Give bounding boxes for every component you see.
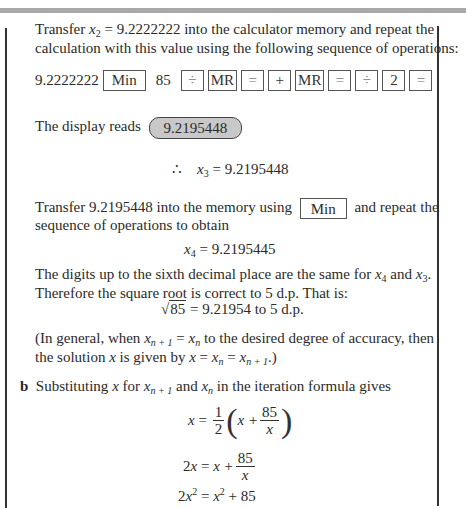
therefore-symbol: ∴	[172, 161, 182, 177]
fraction-85-over-x: 85x	[260, 404, 279, 437]
key-equals[interactable]: =	[241, 70, 264, 91]
frame-right-border	[437, 26, 439, 506]
top-rule	[0, 8, 466, 13]
display-label: The display reads	[35, 118, 141, 134]
general-note-line-1: (In general, when xn + 1 = xn to the des…	[35, 330, 434, 347]
key-min-inline[interactable]: Min	[300, 198, 347, 219]
transfer-line-1: Transfer 9.2195448 into the memory using…	[35, 198, 439, 219]
key-85-value: 85	[156, 72, 171, 89]
general-note-line-2: the solution x is given by x = xn = xn +…	[35, 349, 277, 366]
key-divide[interactable]: ÷	[355, 70, 378, 91]
key-mr[interactable]: MR	[295, 70, 324, 91]
equation-2: 2x = x + 85x	[183, 450, 257, 483]
key-min[interactable]: Min	[103, 70, 146, 91]
digits-line-2: Therefore the square root is correct to …	[35, 285, 348, 302]
sqrt-symbol: √85	[161, 301, 186, 318]
transfer-line-2: sequence of operations to obtain	[35, 217, 229, 234]
key-plus[interactable]: +	[268, 70, 291, 91]
intro-line-2: calculation with this value using the fo…	[35, 40, 459, 57]
fraction-85-over-x-2: 85x	[236, 450, 255, 483]
frame-left-border	[5, 28, 7, 508]
key-mr[interactable]: MR	[208, 70, 237, 91]
fraction-half: 12	[213, 404, 225, 437]
x4-equation: x4 = 9.2195445	[184, 241, 275, 258]
key-equals[interactable]: =	[409, 70, 432, 91]
right-paren: )	[281, 406, 292, 436]
part-b-line: b Substituting x for xn + 1 and xn in th…	[20, 378, 391, 395]
key-sequence: 9.2222222 Min 85 ÷ MR = + MR = ÷ 2 =	[35, 68, 436, 92]
key-2[interactable]: 2	[382, 70, 405, 91]
key-divide[interactable]: ÷	[181, 70, 204, 91]
start-value: 9.2222222	[35, 72, 99, 89]
sqrt-result: √85 = 9.21954 to 5 d.p.	[161, 301, 304, 318]
left-paren: (	[226, 406, 237, 436]
equation-1: x = 12 ( x + 85x )	[188, 404, 292, 437]
calculator-display: 9.2195448	[149, 117, 243, 139]
display-line: The display reads 9.2195448	[35, 117, 242, 139]
digits-line-1: The digits up to the sixth decimal place…	[35, 266, 431, 283]
intro-line-1: Transfer x2 = 9.2222222 into the calcula…	[35, 21, 434, 38]
x3-equation: ∴ x3 = 9.2195448	[172, 160, 288, 178]
key-equals[interactable]: =	[328, 70, 351, 91]
part-b-label: b	[20, 378, 28, 394]
equation-3: 2x2 = x2 + 85	[178, 488, 256, 505]
